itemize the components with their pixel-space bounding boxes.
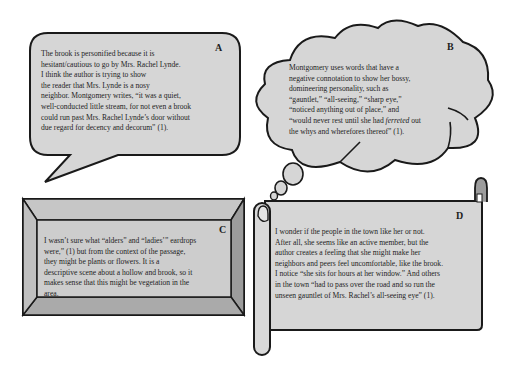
text-line: hesitant/cautious to go by Mrs. Rachel L… — [41, 60, 191, 71]
text-line: Montgomery uses words that have a — [289, 63, 421, 74]
text-line: unseen gauntlet of Mrs. Rachel’s all-see… — [275, 291, 443, 302]
text-line: area. — [44, 289, 196, 300]
italic-word: ferreted — [386, 116, 410, 125]
panel-label-a: A — [215, 42, 222, 53]
text-line: could run past Mrs. Rachel Lynde’s door … — [41, 113, 191, 124]
text-line: I think the author is trying to show — [41, 70, 191, 81]
text-line: negative connotation to show her bossy, — [289, 74, 421, 85]
text-line: neighbors and peers feel uncomfortable, … — [275, 259, 443, 270]
text-line: in the town “had to pass over the road a… — [275, 280, 443, 291]
text-line: makes sense that this might be vegetatio… — [44, 278, 196, 289]
text-line: author creates a feeling that she might … — [275, 248, 443, 259]
text-segment: “would never rest until she had — [289, 116, 386, 125]
panel-d-text: I wonder if the people in the town like … — [275, 227, 443, 301]
text-line: were,” (1) but from the context of the p… — [44, 247, 196, 258]
panel-label-b: B — [447, 41, 454, 52]
text-segment: out — [409, 116, 421, 125]
text-line: well-conducted little stream, for not ev… — [41, 102, 191, 113]
panel-label-d: D — [456, 210, 463, 221]
text-line: I notice “she sits for hours at her wind… — [275, 269, 443, 280]
text-line: domineering personality, such as — [289, 84, 421, 95]
text-line: the whys and wherefores thereof” (1). — [289, 127, 421, 138]
text-line: due regard for decency and decorum” (1). — [41, 123, 191, 134]
text-line: I wasn’t sure what “alders” and “ladies’… — [44, 236, 196, 247]
text-line: After all, she seems like an active memb… — [275, 238, 443, 249]
panel-c-text: I wasn’t sure what “alders” and “ladies’… — [44, 236, 196, 300]
text-line: the reader that Mrs. Lynde is a nosy — [41, 81, 191, 92]
panel-b-text: Montgomery uses words that have a negati… — [289, 63, 421, 137]
text-line: descriptive scene about a hollow and bro… — [44, 268, 196, 279]
text-line-with-italic: “would never rest until she had ferreted… — [289, 116, 421, 127]
panel-label-c: C — [219, 224, 226, 235]
text-line: The brook is personified because it is — [41, 49, 191, 60]
text-line: neighbor. Montgomery writes, “it was a q… — [41, 91, 191, 102]
text-line: “noticed anything out of place,” and — [289, 105, 421, 116]
panel-a-text: The brook is personified because it is h… — [41, 49, 191, 134]
text-line: I wonder if the people in the town like … — [275, 227, 443, 238]
text-line: “gauntlet,” “all-seeing,” “sharp eye,” — [289, 95, 421, 106]
text-line: they might be plants or flowers. It is a — [44, 257, 196, 268]
